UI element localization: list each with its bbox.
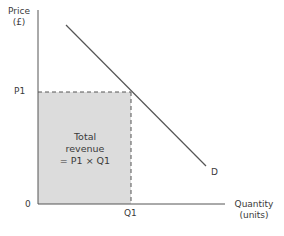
y-axis-label-line1: Price [4,6,34,17]
y-axis-label: Price (£) [4,6,34,28]
total-revenue-line2: revenue [40,143,130,155]
q1-tick-label: Q1 [124,208,137,219]
x-axis-label-line1: Quantity [229,199,279,210]
x-axis-label: Quantity (units) [229,199,279,221]
p1-tick-label: P1 [14,86,25,97]
total-revenue-line3: = P1 × Q1 [40,155,130,167]
demand-label: D [211,167,218,178]
y-axis-label-line2: (£) [4,17,34,28]
total-revenue-label: Total revenue = P1 × Q1 [40,131,130,167]
total-revenue-line1: Total [40,131,130,143]
x-axis-label-line2: (units) [229,210,279,221]
origin-label: 0 [25,199,31,210]
